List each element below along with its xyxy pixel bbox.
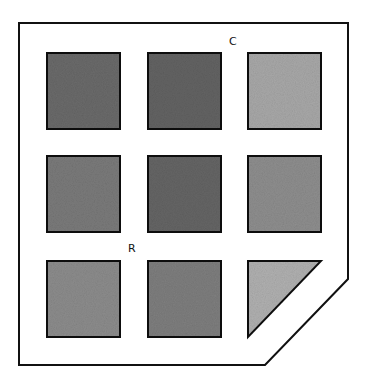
cell-r2-c3 (248, 156, 321, 232)
cell-r1-c3 (248, 53, 321, 129)
cell-r1-c1 (47, 53, 120, 129)
cell-r1-c2 (148, 53, 221, 129)
cell-r3-c1 (47, 261, 120, 337)
cell-r3-c2 (148, 261, 221, 337)
grid-diagram (0, 0, 368, 383)
cell-r2-c1 (47, 156, 120, 232)
cell-r2-c2 (148, 156, 221, 232)
row-label: R (128, 242, 136, 255)
column-label: C (229, 35, 237, 48)
